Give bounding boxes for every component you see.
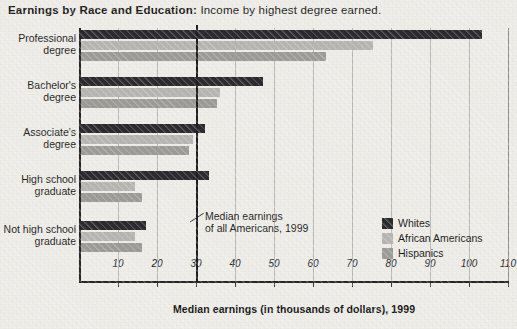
category-label-line: Associate's [0, 127, 76, 139]
legend-swatch-icon [382, 233, 393, 244]
legend-label: African Americans [398, 232, 483, 244]
tick-mark-60 [313, 282, 314, 287]
tick-mark-80 [391, 282, 392, 287]
category-label-associate-s-degree: Associate'sdegree [0, 127, 76, 150]
bar-associate-s-degree-african-americans [80, 135, 193, 144]
legend-item-whites: Whites [382, 216, 483, 230]
bar-high-school-graduate-hispanics [80, 193, 142, 202]
plot-right-border [508, 28, 509, 282]
median-reference-line [196, 25, 198, 282]
tick-mark-50 [274, 282, 275, 287]
bar-bachelor-s-degree-african-americans [80, 88, 220, 97]
tick-mark-90 [430, 282, 431, 287]
bar-high-school-graduate-whites [80, 171, 209, 180]
tick-mark-100 [469, 282, 470, 287]
gridline-60 [313, 28, 314, 282]
x-axis-title: Median earnings (in thousands of dollars… [79, 303, 509, 315]
bar-professional-degree-whites [80, 30, 482, 39]
y-axis-category-labels: ProfessionaldegreeBachelor'sdegreeAssoci… [0, 28, 76, 282]
tick-mark-40 [235, 282, 236, 287]
bar-not-high-school-graduate-whites [80, 221, 146, 230]
y-axis-line [79, 28, 81, 282]
category-label-line: graduate [0, 236, 76, 248]
category-label-line: graduate [0, 186, 76, 198]
tick-mark-10 [118, 282, 119, 287]
bar-not-high-school-graduate-african-americans [80, 232, 135, 241]
median-annotation-line-1: Median earnings [205, 210, 308, 222]
chart-title-strong: Earnings by Race and Education: [8, 4, 197, 16]
tick-mark-30 [196, 282, 197, 287]
chart-title-subtitle: Income by highest degree earned. [200, 4, 381, 16]
bar-high-school-graduate-african-americans [80, 182, 135, 191]
category-label-line: degree [0, 45, 76, 57]
category-label-line: Professional [0, 33, 76, 45]
gridline-20 [157, 28, 158, 282]
x-axis-line [79, 281, 509, 283]
tick-mark-110 [508, 282, 509, 287]
category-label-not-high-school-graduate: Not high schoolgraduate [0, 224, 76, 247]
gridline-70 [352, 28, 353, 282]
legend-swatch-icon [382, 218, 393, 229]
legend-item-hispanics: Hispanics [382, 246, 483, 260]
category-label-line: Bachelor's [0, 80, 76, 92]
category-label-line: High school [0, 174, 76, 186]
legend-label: Hispanics [398, 247, 444, 259]
annotation-leader-line [190, 213, 205, 223]
legend-item-african-americans: African Americans [382, 231, 483, 245]
legend: WhitesAfrican AmericansHispanics [382, 216, 483, 261]
bar-associate-s-degree-hispanics [80, 146, 189, 155]
category-label-professional-degree: Professionaldegree [0, 33, 76, 56]
tick-mark-70 [352, 282, 353, 287]
median-annotation: Median earnings of all Americans, 1999 [205, 210, 308, 234]
bar-not-high-school-graduate-hispanics [80, 243, 142, 252]
median-annotation-line-2: of all Americans, 1999 [205, 222, 308, 234]
bar-associate-s-degree-whites [80, 124, 205, 133]
category-label-line: Not high school [0, 224, 76, 236]
tick-mark-20 [157, 282, 158, 287]
category-label-line: degree [0, 139, 76, 151]
legend-label: Whites [398, 217, 430, 229]
category-label-high-school-graduate: High schoolgraduate [0, 174, 76, 197]
bar-bachelor-s-degree-whites [80, 77, 263, 86]
category-label-bachelor-s-degree: Bachelor'sdegree [0, 80, 76, 103]
chart-title: Earnings by Race and Education: Income b… [8, 4, 381, 16]
category-label-line: degree [0, 92, 76, 104]
gridline-50 [274, 28, 275, 282]
bar-professional-degree-african-americans [80, 41, 373, 50]
legend-swatch-icon [382, 248, 393, 259]
bar-professional-degree-hispanics [80, 52, 326, 61]
gridline-40 [235, 28, 236, 282]
